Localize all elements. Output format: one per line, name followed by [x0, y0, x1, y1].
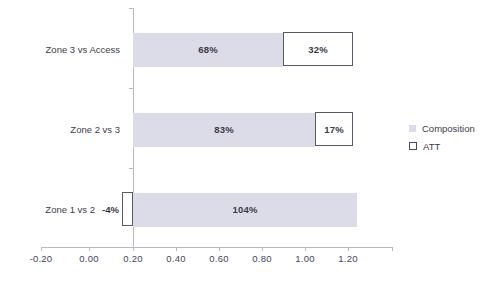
legend-label-att: ATT: [423, 141, 440, 152]
axis-tick: [176, 247, 177, 251]
axis-tick: [392, 247, 393, 251]
bar-value-composition: 104%: [133, 193, 357, 227]
category-tick: [129, 8, 133, 9]
axis-tick: [41, 247, 42, 251]
chart-legend: Composition ATT: [409, 119, 475, 155]
legend-item-composition[interactable]: Composition: [409, 119, 475, 137]
bar-value-att: 32%: [283, 33, 353, 67]
bar-value-att: -4%: [62, 193, 119, 227]
axis-tick: [305, 247, 306, 251]
bar-segment-att-negative[interactable]: [122, 192, 133, 226]
category-label-zone-3-vs-access: Zone 3 vs Access: [0, 44, 120, 56]
legend-label-composition: Composition: [422, 123, 475, 134]
axis-tick-label: 1.20: [318, 253, 378, 264]
category-tick: [129, 168, 133, 169]
bar-chart: -0.20 0.00 0.20 0.40 0.60 0.80 1.00 1.20…: [0, 0, 501, 284]
axis-tick: [219, 247, 220, 251]
outlined-square-swatch-icon: [409, 142, 417, 150]
axis-tick: [262, 247, 263, 251]
filled-square-swatch-icon: [409, 125, 416, 132]
bar-value-composition: 83%: [133, 113, 315, 147]
bar-value-att: 17%: [315, 113, 353, 147]
legend-item-att[interactable]: ATT: [409, 137, 475, 155]
bar-value-composition: 68%: [133, 33, 283, 67]
axis-tick: [348, 247, 349, 251]
category-label-zone-2-vs-3: Zone 2 vs 3: [0, 124, 120, 136]
category-tick: [129, 88, 133, 89]
axis-tick: [133, 247, 134, 251]
axis-tick: [89, 247, 90, 251]
category-axis-line: [41, 247, 393, 248]
